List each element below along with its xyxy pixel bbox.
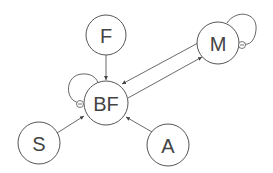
minus-icon-m [239, 42, 246, 49]
node-label: F [100, 25, 112, 47]
diagram-canvas: F BF M S A [0, 0, 273, 173]
edge-m-bf [122, 43, 198, 84]
node-m: M [197, 22, 239, 64]
edge-a-bf [126, 117, 152, 132]
node-s: S [18, 122, 60, 164]
node-label: M [210, 33, 227, 55]
node-f: F [86, 15, 126, 55]
node-label: BF [93, 93, 119, 115]
minus-icon-bf [77, 101, 84, 108]
edge-bf-m [128, 57, 202, 98]
edge-s-bf [57, 116, 84, 133]
node-a: A [147, 124, 189, 166]
node-label: S [32, 133, 45, 155]
node-label: A [161, 135, 175, 157]
node-bf: BF [84, 81, 128, 125]
